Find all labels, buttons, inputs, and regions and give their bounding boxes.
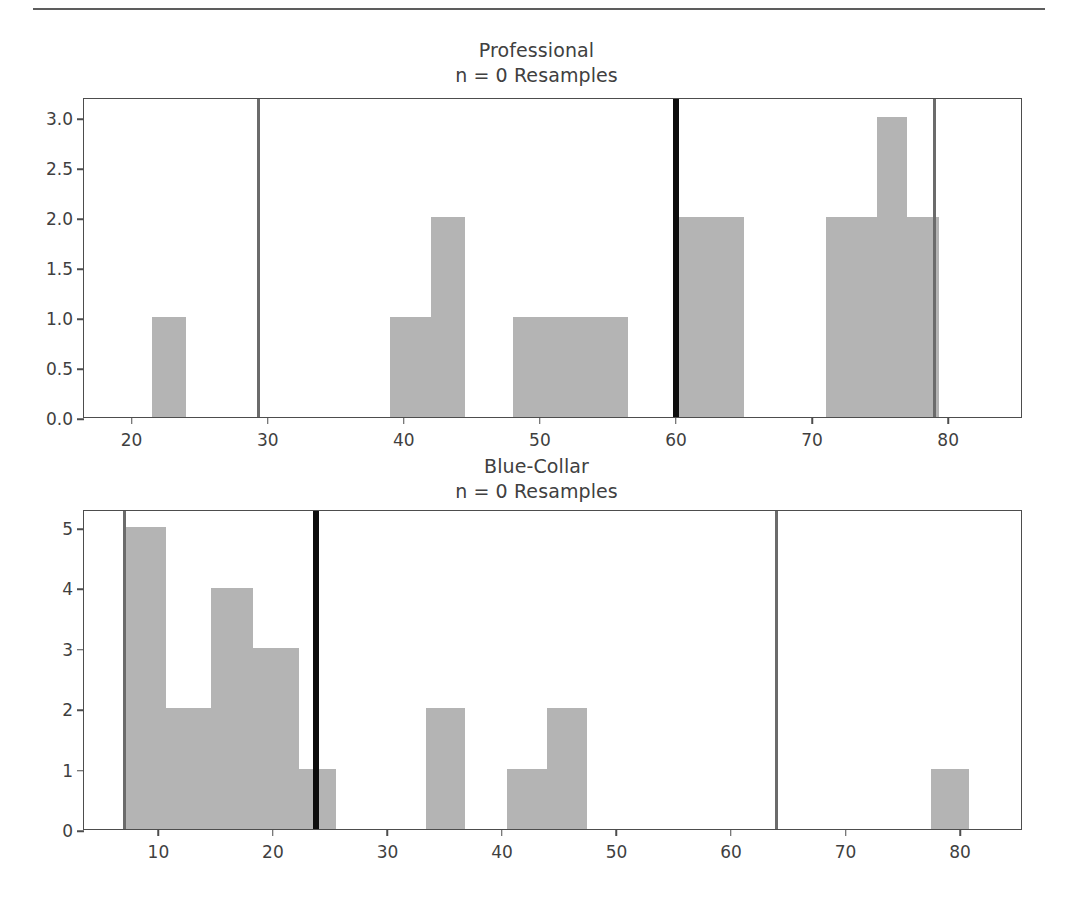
x-axis-tick: [272, 829, 274, 836]
x-axis-label: 20: [121, 430, 143, 450]
plot-inner-blue-collar: [84, 511, 1021, 829]
x-axis-label: 30: [377, 842, 399, 862]
y-axis-label: 3: [62, 640, 73, 660]
x-axis-tick: [947, 417, 949, 424]
y-axis-label: 1.0: [46, 309, 73, 329]
y-axis-label: 1.5: [46, 259, 73, 279]
reference-line-ci-lower: [257, 99, 260, 417]
y-axis-label: 4: [62, 579, 73, 599]
plot-inner-professional: [84, 99, 1021, 417]
histogram-bar: [152, 317, 186, 417]
chart-professional: Professional n = 0 Resamples 0.00.51.01.…: [0, 30, 1073, 450]
reference-line-ci-lower: [123, 511, 126, 829]
y-axis-tick: [77, 218, 84, 220]
histogram-bar: [547, 708, 587, 829]
y-axis-label: 2.0: [46, 209, 73, 229]
x-axis-tick: [959, 829, 961, 836]
x-axis-label: 40: [491, 842, 513, 862]
reference-line-observed-statistic: [313, 511, 319, 829]
histogram-bar: [513, 317, 629, 417]
x-axis-tick: [158, 829, 160, 836]
x-axis-tick: [811, 417, 813, 424]
y-axis-tick: [77, 168, 84, 170]
y-axis-tick: [77, 418, 84, 420]
x-axis-tick: [616, 829, 618, 836]
x-axis-tick: [539, 417, 541, 424]
histogram-bar: [426, 708, 465, 829]
x-axis-tick: [501, 829, 503, 836]
figure-page: Professional n = 0 Resamples 0.00.51.01.…: [0, 0, 1073, 902]
histogram-bar: [507, 769, 547, 829]
x-axis-tick: [267, 417, 269, 424]
x-axis-tick: [131, 417, 133, 424]
header-divider-rule: [33, 8, 1045, 10]
reference-line-observed-statistic: [673, 99, 679, 417]
x-axis-tick: [845, 829, 847, 836]
plot-area-professional: 0.00.51.01.52.02.53.020304050607080: [83, 98, 1022, 418]
histogram-bar: [826, 217, 878, 417]
x-axis-label: 30: [257, 430, 279, 450]
y-axis-tick: [77, 528, 84, 530]
y-axis-label: 0.0: [46, 409, 73, 429]
histogram-bar: [253, 648, 299, 829]
x-axis-tick: [675, 417, 677, 424]
histogram-bar: [676, 217, 744, 417]
x-axis-tick: [730, 829, 732, 836]
y-axis-tick: [77, 709, 84, 711]
x-axis-label: 80: [937, 430, 959, 450]
y-axis-tick: [77, 589, 84, 591]
x-axis-tick: [387, 829, 389, 836]
y-axis-tick: [77, 118, 84, 120]
x-axis-label: 70: [801, 430, 823, 450]
y-axis-label: 5: [62, 519, 73, 539]
plot-area-blue-collar: 0123451020304050607080: [83, 510, 1022, 830]
histogram-bar: [390, 317, 431, 417]
histogram-bar: [211, 588, 253, 830]
x-axis-label: 20: [262, 842, 284, 862]
histogram-bar: [431, 217, 465, 417]
y-axis-tick: [77, 830, 84, 832]
y-axis-tick: [77, 770, 84, 772]
reference-line-ci-upper: [933, 99, 936, 417]
chart-title-professional: Professional n = 0 Resamples: [0, 38, 1073, 88]
x-axis-label: 40: [393, 430, 415, 450]
x-axis-label: 80: [949, 842, 971, 862]
y-axis-tick: [77, 318, 84, 320]
histogram-bar: [931, 769, 969, 829]
chart-blue-collar: Blue-Collar n = 0 Resamples 012345102030…: [0, 448, 1073, 898]
y-axis-tick: [77, 368, 84, 370]
histogram-bar: [166, 708, 211, 829]
histogram-bar: [877, 117, 907, 417]
x-axis-label: 60: [665, 430, 687, 450]
y-axis-label: 2.5: [46, 159, 73, 179]
y-axis-tick: [77, 268, 84, 270]
x-axis-label: 60: [720, 842, 742, 862]
x-axis-label: 10: [148, 842, 170, 862]
y-axis-label: 1: [62, 761, 73, 781]
chart-title-blue-collar: Blue-Collar n = 0 Resamples: [0, 454, 1073, 504]
reference-line-ci-upper: [775, 511, 778, 829]
x-axis-tick: [403, 417, 405, 424]
y-axis-label: 0.5: [46, 359, 73, 379]
x-axis-label: 50: [606, 842, 628, 862]
y-axis-label: 0: [62, 821, 73, 841]
x-axis-label: 50: [529, 430, 551, 450]
y-axis-tick: [77, 649, 84, 651]
y-axis-label: 3.0: [46, 109, 73, 129]
x-axis-label: 70: [835, 842, 857, 862]
y-axis-label: 2: [62, 700, 73, 720]
histogram-bar: [124, 527, 166, 829]
